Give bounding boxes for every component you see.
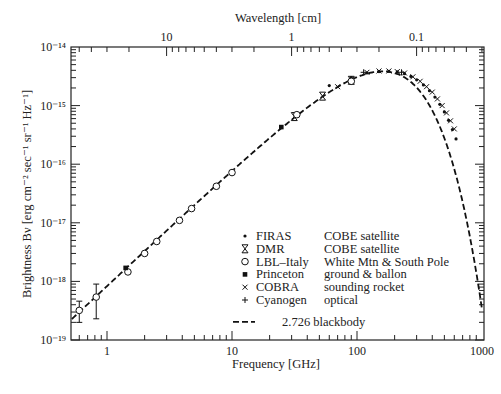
firas-dot-marker [328,84,331,87]
x2-tick-label: 0.1 [409,30,424,44]
circle-marker [188,205,195,212]
hourglass-marker [242,245,248,253]
circle-marker [242,258,249,265]
circle-marker [176,217,183,224]
legend-item-description: optical [324,293,359,307]
frequency-axis-title: Frequency [GHz] [232,357,320,371]
top-axis-title: Wavelength [cm] [235,11,321,25]
square-marker [279,125,284,130]
circle-marker [229,169,236,176]
wavelength-axis-title: Wavelength [cm] [235,11,321,25]
y-axis-title: Brightness Bν [erg cm⁻² sec⁻¹ sr⁻¹ Hz⁻¹] [20,90,34,298]
x-tick-label: 100 [348,344,366,358]
circle-marker [93,294,100,301]
x-tick-label: 1 [104,344,110,358]
bottom-axis-title: Frequency [GHz] [232,357,320,371]
legend-curve-label: 2.726 blackbody [282,315,366,329]
x2-tick-label: 10 [161,30,173,44]
y-tick-label: 10⁻¹⁹ [40,333,66,347]
circle-marker [141,250,148,257]
y-tick-label: 10⁻¹⁴ [40,40,66,54]
y-tick-label: 10⁻¹⁵ [40,99,66,113]
x2-tick-label: 1 [289,30,295,44]
firas-dot-marker [454,137,457,140]
y-tick-label: 10⁻¹⁶ [40,157,66,171]
y-tick-label: 10⁻¹⁷ [40,216,66,230]
circle-marker [348,78,355,85]
x-tick-label: 1000 [470,344,494,358]
legend-item-name: Cyanogen [256,293,307,307]
x-tick-label: 10 [226,344,238,358]
square-marker [243,272,248,277]
square-marker [123,266,128,271]
brightness-axis-title: Brightness Bν [erg cm⁻² sec⁻¹ sr⁻¹ Hz⁻¹] [20,90,34,298]
axis-tick-labels: 11010010001010.110⁻¹⁴10⁻¹⁵10⁻¹⁶10⁻¹⁷10⁻¹… [40,30,494,358]
y-tick-label: 10⁻¹⁸ [40,274,66,288]
circle-marker [213,183,220,190]
circle-marker [294,111,301,118]
cmb-spectrum-chart: Wavelength [cm] Frequency [GHz] Brightne… [0,0,501,394]
legend: FIRASCOBE satelliteDMRCOBE satelliteLBL–… [233,229,449,329]
circle-marker [153,238,160,245]
circle-marker [76,307,83,314]
firas-dot-marker [243,234,246,237]
